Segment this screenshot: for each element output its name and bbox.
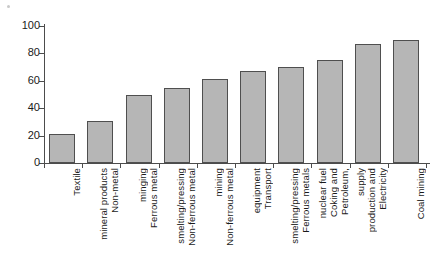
x-category-label-line: supply [355, 168, 366, 196]
x-category-label-line: Coking and [328, 168, 339, 217]
x-axis-category-labels: TextileNon-metalmineral productsFerrous … [44, 168, 426, 272]
x-category-label-line: Ferrous metal [148, 168, 159, 228]
x-category-label-line: smelting/pressing [289, 168, 300, 244]
x-category-label-line: Coal mining [415, 168, 426, 219]
x-category-label-line: mineral products [98, 168, 109, 240]
bar-series [44, 26, 426, 163]
x-category-label: Petroleum,Coking andnuclear fuel [311, 168, 349, 272]
x-category-label-line: smelting/pressing [175, 168, 186, 244]
bar [126, 95, 152, 164]
x-category-label: Transportequipment [235, 168, 273, 272]
x-category-label-line: Petroleum, [339, 168, 350, 215]
x-category-label: Textile [44, 168, 82, 272]
x-category-label-line: nuclear fuel [317, 168, 328, 218]
x-category-label-line: mining [213, 168, 224, 197]
x-category-label-line: minging [137, 168, 148, 202]
x-category-label: Ferrous metalminging [120, 168, 158, 272]
scan-artifact-speck [7, 5, 10, 8]
x-category-label: Electricityproduction andsupply [350, 168, 388, 272]
bar [278, 67, 304, 163]
x-category-label-line: Ferrous metals [300, 168, 311, 233]
y-tick-label: 60 [28, 74, 40, 87]
x-category-label-line: Textile [71, 168, 82, 196]
x-category-label-line: Non-ferrous metal [186, 168, 197, 246]
x-category-label: Coal mining [388, 168, 426, 272]
bar [393, 40, 419, 163]
y-tick-label: 100 [22, 19, 40, 32]
y-tick-label: 40 [28, 101, 40, 114]
y-tick-label: 80 [28, 46, 40, 59]
x-tick-mark [426, 163, 427, 168]
x-category-label: Ferrous metalssmelting/pressing [273, 168, 311, 272]
x-category-label-line: Electricity [377, 168, 388, 210]
x-category-label-line: equipment [251, 168, 262, 213]
x-category-label-line: Transport [262, 168, 273, 209]
x-category-label: Non-ferrous metalsmelting/pressing [159, 168, 197, 272]
bar [164, 88, 190, 163]
y-tick-label: 20 [28, 129, 40, 142]
bar [202, 79, 228, 163]
bar [49, 134, 75, 163]
x-category-label: Non-metalmineral products [82, 168, 120, 272]
x-category-label: Non-ferrous metalmining [197, 168, 235, 272]
plot-area: 020406080100 [44, 26, 426, 163]
x-category-label-line: production and [366, 168, 377, 232]
bar [317, 60, 343, 163]
x-category-label-line: Non-metal [109, 168, 120, 213]
bar [240, 71, 266, 163]
bar [87, 121, 113, 163]
bar-chart: 020406080100 TextileNon-metalmineral pro… [0, 0, 439, 276]
x-category-label-line: Non-ferrous metal [224, 168, 235, 246]
bar [355, 44, 381, 163]
y-tick-label: 0 [34, 156, 40, 169]
